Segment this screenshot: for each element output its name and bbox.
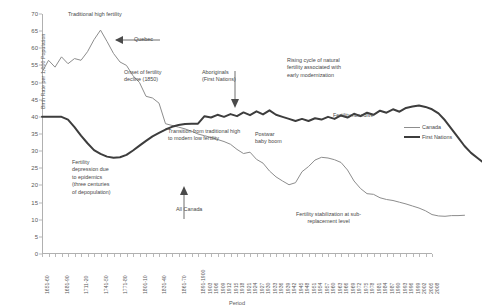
x-tick-mark — [296, 254, 297, 257]
x-tick-mark — [302, 254, 303, 257]
y-tick-label: 45 — [31, 97, 38, 103]
x-tick-mark — [120, 254, 121, 257]
x-tick-label: 1903 — [207, 283, 213, 294]
legend-item-canada[interactable]: Canada — [404, 122, 452, 132]
x-tick-label: 1651-60 — [44, 275, 50, 294]
x-tick-mark — [146, 254, 147, 257]
x-tick-mark — [393, 254, 394, 257]
x-tick-mark — [153, 254, 154, 257]
x-tick-mark — [335, 254, 336, 257]
x-tick-mark — [270, 254, 271, 257]
x-tick-mark — [322, 254, 323, 257]
x-tick-mark — [276, 254, 277, 257]
x-tick-label: 1936 — [278, 283, 284, 294]
x-tick-label: 2002 — [421, 283, 427, 294]
x-tick-label: 1939 — [285, 283, 291, 294]
x-tick-mark — [367, 254, 368, 257]
anno-aboriginals-first-nations: Aboriginals (First Nations) — [202, 69, 236, 84]
x-tick-label: 1999 — [415, 283, 421, 294]
anno-transition: Transition from traditional high to mode… — [168, 128, 240, 143]
legend-label-first-nations: First Nations — [422, 134, 452, 140]
x-tick-mark — [68, 254, 69, 257]
x-tick-label: 1981 — [376, 283, 382, 294]
x-tick-mark — [88, 254, 89, 257]
x-tick-label: 1921 — [246, 283, 252, 294]
x-tick-label: 1978 — [369, 283, 375, 294]
x-tick-mark — [205, 254, 206, 257]
x-tick-label: 1993 — [402, 283, 408, 294]
legend-item-first-nations[interactable]: First Nations — [404, 132, 452, 142]
x-tick-label: 1945 — [298, 283, 304, 294]
y-tick-label: 55 — [31, 62, 38, 68]
x-tick-label: 1681-90 — [64, 275, 70, 294]
x-tick-label: 1960 — [330, 283, 336, 294]
x-tick-mark — [140, 254, 141, 257]
x-tick-mark — [250, 254, 251, 257]
x-tick-label: 1963 — [337, 283, 343, 294]
x-tick-mark — [380, 254, 381, 257]
x-tick-mark — [218, 254, 219, 257]
x-tick-mark — [426, 254, 427, 257]
y-tick-label: 40 — [31, 114, 38, 120]
x-tick-label: 1990 — [395, 283, 401, 294]
x-tick-label: 1912 — [226, 283, 232, 294]
y-tick-label: 15 — [31, 200, 38, 206]
x-tick-label: 1933 — [272, 283, 278, 294]
y-tick-label: 70 — [31, 11, 38, 17]
x-tick-mark — [185, 254, 186, 257]
x-tick-mark — [244, 254, 245, 257]
anno-fertility-nosedive: Fertility nosedive — [333, 112, 373, 119]
y-tick-label: 60 — [31, 45, 38, 51]
anno-rising-cycle: Rising cycle of natural fertility associ… — [287, 57, 341, 79]
x-tick-label: 1930 — [265, 283, 271, 294]
x-tick-label: 1927 — [259, 283, 265, 294]
x-tick-label: 1891-1900 — [200, 270, 206, 294]
legend-label-canada: Canada — [422, 124, 441, 130]
x-tick-mark — [283, 254, 284, 257]
x-tick-label: 1975 — [363, 283, 369, 294]
x-tick-mark — [419, 254, 420, 257]
x-axis-title: Period — [42, 300, 432, 306]
x-tick-label: 2008 — [434, 283, 440, 294]
x-tick-mark — [315, 254, 316, 257]
x-tick-mark — [413, 254, 414, 257]
anno-all-canada: All Canada — [176, 206, 202, 213]
x-tick-label: 1951 — [311, 283, 317, 294]
x-tick-label: 1906 — [213, 283, 219, 294]
x-tick-label: 1957 — [324, 283, 330, 294]
y-tick-label: 50 — [31, 80, 38, 86]
x-tick-mark — [231, 254, 232, 257]
x-tick-mark — [354, 254, 355, 257]
legend-swatch-canada — [404, 127, 420, 128]
x-tick-mark — [81, 254, 82, 257]
x-tick-mark — [328, 254, 329, 257]
x-tick-mark — [348, 254, 349, 257]
anno-quebec: Quebec — [134, 36, 153, 43]
x-tick-mark — [341, 254, 342, 257]
x-tick-mark — [179, 254, 180, 257]
x-tick-label: 1771-80 — [122, 275, 128, 294]
y-tick-label: 35 — [31, 131, 38, 137]
x-tick-label: 1924 — [252, 283, 258, 294]
y-tick-label: 30 — [31, 148, 38, 154]
x-tick-mark — [55, 254, 56, 257]
x-tick-mark — [387, 254, 388, 257]
x-tick-mark — [114, 254, 115, 257]
x-tick-label: 1918 — [239, 283, 245, 294]
x-tick-mark — [198, 254, 199, 257]
x-tick-mark — [361, 254, 362, 257]
x-tick-mark — [94, 254, 95, 257]
x-tick-label: 1996 — [408, 283, 414, 294]
x-tick-label: 1948 — [304, 283, 310, 294]
x-tick-label: 1972 — [356, 283, 362, 294]
x-tick-mark — [75, 254, 76, 257]
x-tick-mark — [62, 254, 63, 257]
x-tick-label: 1741-50 — [103, 275, 109, 294]
legend-swatch-first-nations — [404, 136, 420, 138]
anno-traditional-high-fertility: Traditional high fertility — [68, 11, 122, 18]
x-tick-label: 1942 — [291, 283, 297, 294]
y-tick-label: 65 — [31, 28, 38, 34]
anno-fertility-depression: Fertility depression due to epidemics (t… — [72, 159, 111, 196]
x-tick-mark — [309, 254, 310, 257]
